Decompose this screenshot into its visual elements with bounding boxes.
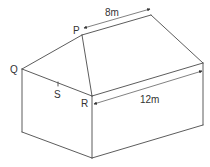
- diagram-svg: P Q R S 8m 12m: [0, 0, 210, 167]
- edge-base-right: [92, 125, 203, 158]
- label-R: R: [81, 98, 88, 109]
- edge-P-R-hip: [82, 35, 92, 96]
- house-diagram: P Q R S 8m 12m: [0, 0, 210, 167]
- label-P: P: [73, 25, 80, 36]
- edge-base-left: [22, 132, 92, 158]
- dimension-label-12m: 12m: [140, 94, 159, 105]
- label-S: S: [54, 89, 61, 100]
- edge-ridge: [82, 15, 151, 35]
- edge-ridge-right-to-eave: [151, 15, 203, 63]
- dimension-label-8m: 8m: [105, 7, 119, 18]
- edge-R-eave-right: [92, 63, 203, 96]
- edge-Q-P: [22, 35, 82, 69]
- label-Q: Q: [10, 64, 18, 75]
